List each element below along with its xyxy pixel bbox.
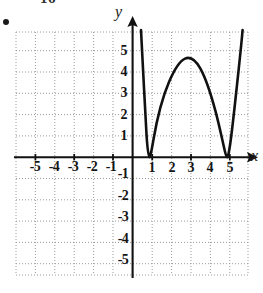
ytick-label-5: 5 [115,44,133,58]
ytick-label-2: 2 [115,108,133,122]
ytick-label--3: -3 [114,210,132,224]
ytick-label--5: -5 [114,253,132,267]
ytick-label--4: -4 [114,232,132,246]
xtick-label--2: -2 [83,160,101,174]
xtick-label--5: -5 [26,160,44,174]
xtick-label-1: 1 [143,161,161,175]
plotted-curve [141,30,243,157]
x-axis-label: x [251,147,258,165]
xtick-label-2: 2 [163,161,181,175]
xtick-label-4: 4 [201,161,219,175]
xtick-label--3: -3 [64,160,82,174]
xtick-label-5: 5 [221,161,239,175]
y-axis-label: y [115,3,122,21]
ytick-label--1: -1 [114,167,132,181]
xtick-label--4: -4 [45,160,63,174]
ytick-label-1: 1 [115,129,133,143]
graph-figure: 16 [0,0,263,293]
ytick-label--2: -2 [114,189,132,203]
xtick-label-3: 3 [182,161,200,175]
ytick-label-4: 4 [115,65,133,79]
ytick-label-3: 3 [115,86,133,100]
